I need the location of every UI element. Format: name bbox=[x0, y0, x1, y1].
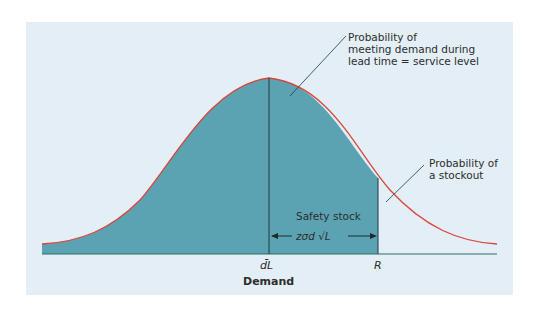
stockout-annotation: Probability of a stockout bbox=[429, 157, 498, 181]
tick-reorder-point: R bbox=[374, 260, 382, 272]
stockout-leader bbox=[386, 165, 424, 202]
annotation-line: a stockout bbox=[429, 169, 498, 181]
annotation-line: lead time = service level bbox=[348, 55, 479, 67]
service-level-leader bbox=[290, 36, 346, 96]
safety-stock-formula: zσd √L bbox=[296, 230, 331, 242]
annotation-line: Probability of bbox=[348, 31, 479, 43]
service-level-area bbox=[42, 78, 378, 254]
safety-stock-label: Safety stock bbox=[296, 210, 361, 222]
annotation-line: Probability of bbox=[429, 157, 498, 169]
tick-mean-demand: d̄L bbox=[260, 260, 273, 272]
service-level-annotation: Probability of meeting demand during lea… bbox=[348, 31, 479, 67]
x-axis-label: Demand bbox=[243, 276, 294, 288]
annotation-line: meeting demand during bbox=[348, 43, 479, 55]
